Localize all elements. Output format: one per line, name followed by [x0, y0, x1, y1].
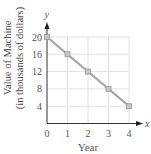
data-point-marker — [45, 35, 50, 40]
x-tick-label: 2 — [86, 128, 91, 139]
x-tick-label: 3 — [106, 128, 111, 139]
x-tick-labels: 01234 — [45, 128, 132, 139]
x-axis-label: Year — [78, 141, 99, 153]
gridlines — [47, 37, 129, 124]
x-axis-arrow-icon — [136, 121, 143, 126]
data-point-marker — [65, 52, 70, 57]
y-axis-label: Value of Machine (in thousands of dollar… — [2, 0, 42, 135]
data-point-marker — [106, 86, 111, 91]
x-tick-label: 0 — [45, 128, 50, 139]
x-tick-label: 4 — [127, 128, 132, 139]
y-axis-label-line-1: Value of Machine — [2, 0, 14, 135]
x-tick-label: 1 — [65, 128, 70, 139]
x-axis-symbol: x — [144, 118, 150, 129]
axes: x y — [44, 9, 151, 129]
data-point-marker — [127, 104, 132, 109]
y-axis-label-line-2: (in thousands of dollars) — [14, 0, 26, 135]
y-axis-arrow-icon — [45, 22, 50, 29]
data-point-marker — [86, 69, 91, 74]
y-axis-symbol: y — [44, 9, 50, 20]
